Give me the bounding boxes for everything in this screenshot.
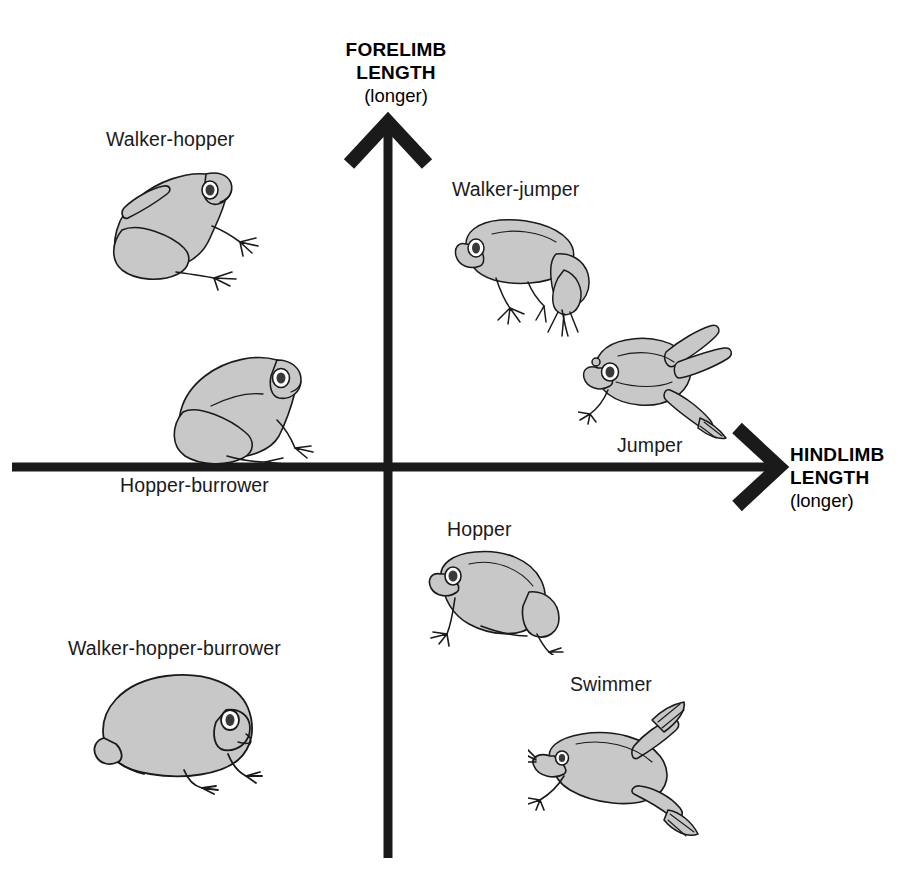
frog-illustration-hopper (425, 540, 575, 655)
x-axis-title-line2: LENGTH (790, 467, 869, 488)
x-axis-qualifier: (longer) (790, 489, 884, 512)
label-jumper: Jumper (617, 434, 683, 457)
y-axis-title-line1: FORELIMB (346, 39, 447, 60)
label-walker-hopper-burrower: Walker-hopper-burrower (68, 637, 281, 660)
frog-illustration-walker-hopper-burrower (88, 662, 273, 797)
y-axis-title: FORELIMB LENGTH (longer) (336, 38, 456, 107)
frog-illustration-hopper-burrower (165, 348, 330, 473)
label-hopper: Hopper (447, 518, 512, 541)
frog-illustration-walker-hopper (100, 152, 270, 292)
frog-illustration-jumper (578, 318, 738, 443)
label-swimmer: Swimmer (570, 673, 652, 696)
frog-locomotion-morphospace-diagram: FORELIMB LENGTH (longer) HINDLIMB LENGTH… (0, 0, 898, 872)
x-axis-title-line1: HINDLIMB (790, 444, 884, 465)
x-axis-title: HINDLIMB LENGTH (longer) (790, 443, 884, 512)
label-walker-hopper: Walker-hopper (106, 128, 234, 151)
frog-illustration-swimmer (528, 700, 713, 840)
y-axis-title-line2: LENGTH (356, 62, 435, 83)
label-walker-jumper: Walker-jumper (452, 178, 579, 201)
y-axis-qualifier: (longer) (336, 84, 456, 107)
label-hopper-burrower: Hopper-burrower (120, 474, 269, 497)
